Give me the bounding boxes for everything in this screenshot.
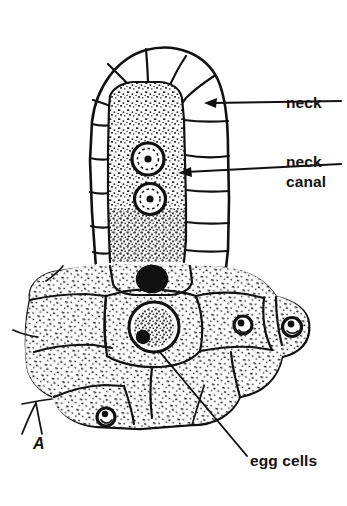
egg-nucleus bbox=[129, 302, 179, 352]
label-neck-canal-line2: canal bbox=[286, 173, 326, 190]
neck-canal-nucleus-lower bbox=[135, 184, 166, 215]
neck-canal-nucleus-upper bbox=[132, 143, 164, 175]
egg-nucleolus bbox=[136, 330, 150, 344]
neck-canal-basal-granules bbox=[104, 208, 190, 266]
label-egg-cells: egg cells bbox=[250, 452, 317, 469]
small-nucleus-right-inner bbox=[234, 316, 252, 334]
figure-container: neck neck canal egg cells A bbox=[0, 0, 347, 506]
small-nucleus-lower-left bbox=[97, 408, 115, 426]
label-neck: neck bbox=[286, 94, 322, 111]
figure-letter: A bbox=[32, 435, 45, 452]
archegonium-diagram: neck neck canal egg cells A bbox=[0, 0, 347, 506]
small-nucleus-right-outer bbox=[283, 318, 302, 337]
label-neck-canal-line1: neck bbox=[286, 153, 322, 170]
ventral-canal-nucleus bbox=[137, 266, 168, 293]
